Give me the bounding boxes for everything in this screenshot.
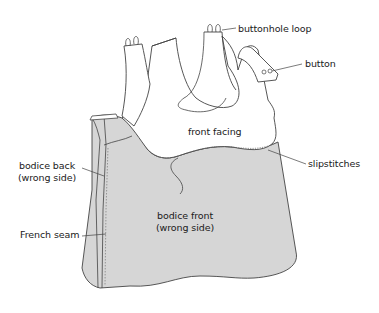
label-bodice-front-line1: bodice front xyxy=(156,210,214,222)
sewing-diagram: buttonhole loop button front facing slip… xyxy=(0,0,379,313)
leader-button xyxy=(272,64,302,71)
label-french-seam: French seam xyxy=(20,229,79,241)
label-bodice-back-line2: (wrong side) xyxy=(18,172,76,184)
label-slipstitches: slipstitches xyxy=(308,158,360,170)
leader-buttonhole-loop xyxy=(222,28,236,30)
label-bodice-front-line2: (wrong side) xyxy=(156,222,214,234)
bodice-illustration xyxy=(0,0,379,313)
label-button: button xyxy=(305,58,336,70)
buttonhole-loop-right xyxy=(208,25,221,33)
label-bodice-front: bodice front (wrong side) xyxy=(156,210,214,234)
label-front-facing: front facing xyxy=(188,126,242,138)
label-buttonhole-loop: buttonhole loop xyxy=(238,23,311,35)
label-bodice-back-line1: bodice back xyxy=(18,160,76,172)
label-bodice-back: bodice back (wrong side) xyxy=(18,160,76,184)
